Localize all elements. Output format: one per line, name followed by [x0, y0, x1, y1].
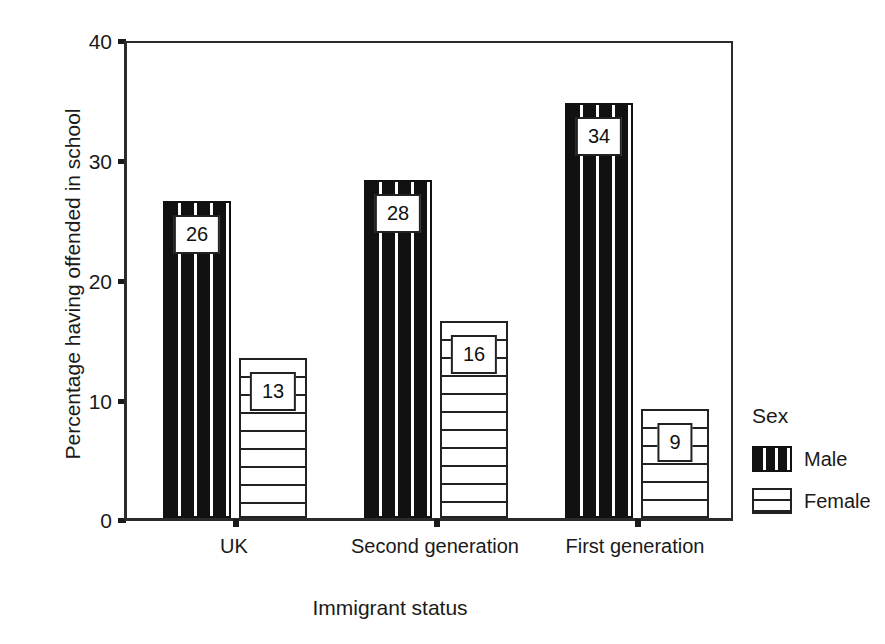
- bar-first-generation-male: [565, 103, 633, 518]
- bar-chart-figure: Percentage having offended in school 40 …: [0, 0, 885, 644]
- x-tick-mark-second-generation: [434, 519, 440, 527]
- legend-swatch-male-icon: [752, 446, 792, 472]
- legend-item-female: Female: [752, 488, 882, 514]
- value-label-second-generation-female: 16: [451, 335, 497, 374]
- y-tick-label-0: 0: [66, 509, 112, 533]
- value-label-uk-female: 13: [250, 372, 296, 411]
- plot-area: 26 13 28 16 34 9: [124, 41, 733, 521]
- legend-item-male: Male: [752, 446, 882, 472]
- x-axis-title: Immigrant status: [0, 596, 780, 620]
- x-tick-label-second-generation: Second generation: [337, 535, 533, 558]
- y-tick-label-40: 40: [66, 30, 112, 54]
- legend-label-male: Male: [804, 448, 847, 471]
- y-tick-label-20: 20: [66, 270, 112, 294]
- y-tick-label-10: 10: [66, 390, 112, 414]
- value-label-uk-male: 26: [174, 215, 220, 254]
- legend-title: Sex: [752, 404, 882, 428]
- y-tick-label-30: 30: [66, 150, 112, 174]
- value-label-first-generation-male: 34: [576, 117, 622, 156]
- legend: Sex Male Female: [752, 404, 882, 530]
- x-tick-mark-first-generation: [635, 519, 641, 527]
- legend-swatch-female-icon: [752, 488, 792, 514]
- value-label-second-generation-male: 28: [375, 194, 421, 233]
- x-tick-label-first-generation: First generation: [541, 535, 729, 558]
- x-tick-mark-uk: [233, 519, 239, 527]
- x-tick-label-uk: UK: [156, 535, 312, 558]
- value-label-first-generation-female: 9: [657, 423, 692, 462]
- legend-label-female: Female: [804, 490, 871, 513]
